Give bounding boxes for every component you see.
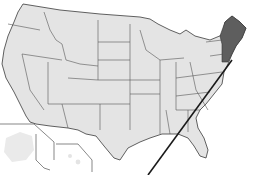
hawaii-island: [76, 160, 81, 165]
new-england-highlight: [220, 16, 246, 62]
hawaii-inset-frame: [56, 144, 92, 172]
contiguous-us: [2, 4, 246, 160]
hawaii-island: [68, 154, 72, 158]
us-map: [0, 0, 266, 175]
alaska-shape: [4, 132, 34, 162]
